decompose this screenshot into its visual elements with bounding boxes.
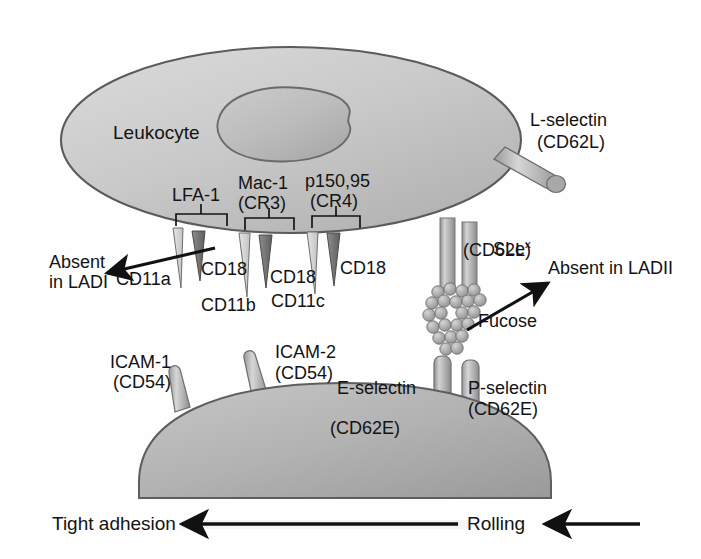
e-selectin-label: E-selectin	[337, 378, 416, 398]
cd11b-label: CD11b	[201, 295, 256, 315]
cd18-b-label: CD18	[270, 267, 316, 287]
icam-1-cd-label: (CD54)	[113, 372, 171, 392]
p150-95-label: p150,95	[305, 171, 370, 191]
leukocyte-label: Leukocyte	[113, 122, 200, 143]
figure-canvas: Leukocyte LFA-1 Mac-1 (CR3) p150,95 (CR4…	[0, 0, 701, 559]
cd11a-label: CD11a	[116, 269, 171, 289]
icam-2-cd-label: (CD54)	[275, 363, 333, 383]
mac-1-label: Mac-1	[238, 173, 288, 193]
cd18-a-label: CD18	[201, 259, 247, 279]
l-selectin-cd-label: (CD62L)	[537, 132, 605, 152]
p-selectin-cd-label: (CD62E)	[468, 399, 538, 419]
lfa-1-label: LFA-1	[172, 185, 220, 205]
absent-in-ladii-label: Absent in LADII	[548, 258, 673, 278]
cd11c-label: CD11c	[271, 291, 325, 311]
rolling-label: Rolling	[467, 513, 525, 534]
icam-2-label: ICAM-2	[275, 342, 336, 362]
fucose-label: Fucose	[478, 311, 537, 331]
l-selectin-label: L-selectin	[530, 110, 607, 130]
slex-cd-label: (CD62L)	[463, 240, 531, 260]
leukocyte-nucleus	[217, 87, 350, 161]
p150-95-alt-label: (CR4)	[310, 191, 358, 211]
glycan-bead-cluster	[423, 283, 486, 355]
absent-in-ladi-line2: in LADI	[49, 272, 108, 292]
e-selectin-cd-label: (CD62E)	[330, 418, 400, 438]
tight-adhesion-label: Tight adhesion	[52, 513, 176, 534]
absent-in-ladi-line1: Absent	[49, 252, 105, 272]
p-selectin-label: P-selectin	[468, 378, 547, 398]
icam-1-label: ICAM-1	[110, 352, 171, 372]
cd18-c-label: CD18	[340, 258, 386, 278]
mac-1-alt-label: (CR3)	[238, 193, 286, 213]
